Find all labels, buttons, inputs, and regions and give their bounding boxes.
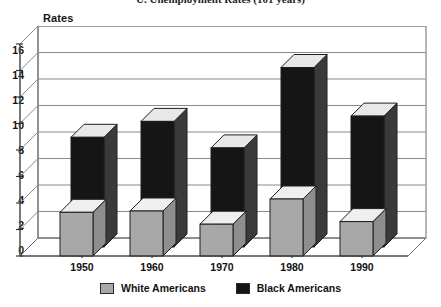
x-axis	[20, 256, 408, 258]
legend-swatch-icon	[100, 283, 114, 294]
x-tick-label: 1970	[194, 261, 250, 273]
bar-white-1950	[60, 199, 106, 256]
legend-swatch-icon	[236, 283, 250, 294]
bar-group-1980	[270, 55, 327, 257]
x-tick-label: 1960	[124, 261, 180, 273]
chart-plot-area: .frame-line { stroke:#6e6e6e; stroke-wid…	[16, 26, 428, 258]
chart-legend: White Americans Black Americans	[0, 282, 441, 294]
bar-group-1990	[340, 103, 397, 256]
bar-white-1980	[270, 186, 316, 256]
bar-group-1960	[130, 108, 187, 256]
legend-label: Black Americans	[257, 282, 341, 294]
x-tick-label: 1990	[334, 261, 390, 273]
legend-label: White Americans	[121, 282, 206, 294]
y-axis	[16, 44, 23, 256]
legend-item-black-americans: Black Americans	[236, 282, 341, 294]
x-tick-label: 1980	[264, 261, 320, 273]
bar-group-1970	[200, 135, 257, 256]
legend-item-white-americans: White Americans	[100, 282, 206, 294]
bar-white-1960	[130, 198, 176, 256]
bar-group-1950	[60, 124, 117, 256]
chart-title: U. Unemployment Rates (101 years)	[0, 0, 441, 5]
y-axis-label: Rates	[43, 12, 73, 24]
bar-white-1990	[340, 209, 386, 256]
x-tick-label: 1950	[54, 261, 110, 273]
bar-white-1970	[200, 211, 246, 256]
